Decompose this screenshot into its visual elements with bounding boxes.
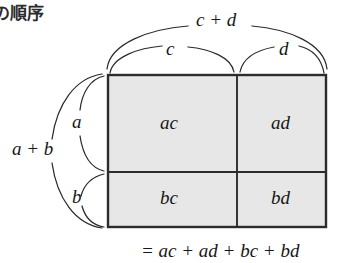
brace-top-outer-left-arm (107, 26, 188, 69)
result-equation: = ac + ad + bc + bd (141, 241, 299, 260)
label-column-c: c (166, 39, 174, 58)
diagram-canvas: の順序 c + d c d a + b a b ac a (0, 0, 341, 263)
label-left-outer-sum: a + b (12, 139, 53, 158)
cell-label-ac: ac (160, 113, 178, 132)
grid-outer-border (108, 75, 326, 227)
cell-label-bd: bd (271, 188, 290, 207)
brace-left-a-top-arm (80, 76, 104, 110)
cell-label-ad: ad (271, 113, 290, 132)
brace-top-c-left-arm (110, 46, 162, 73)
brace-top-d-right-arm (299, 46, 324, 73)
brace-left-b-top-arm (81, 174, 104, 196)
brace-top-c-right-arm (188, 47, 234, 72)
label-column-d: d (279, 39, 289, 58)
label-top-outer-sum: c + d (196, 10, 236, 29)
cell-label-bc: bc (160, 188, 178, 207)
label-row-b: b (72, 187, 82, 206)
brace-left-b-bottom-arm (82, 206, 104, 227)
brace-top-d-left-arm (240, 47, 274, 72)
page-heading-japanese: の順序 (0, 0, 44, 24)
label-row-a: a (72, 112, 82, 131)
brace-left-a-bottom-arm (80, 136, 104, 171)
brace-top-outer-right-arm (252, 26, 327, 69)
